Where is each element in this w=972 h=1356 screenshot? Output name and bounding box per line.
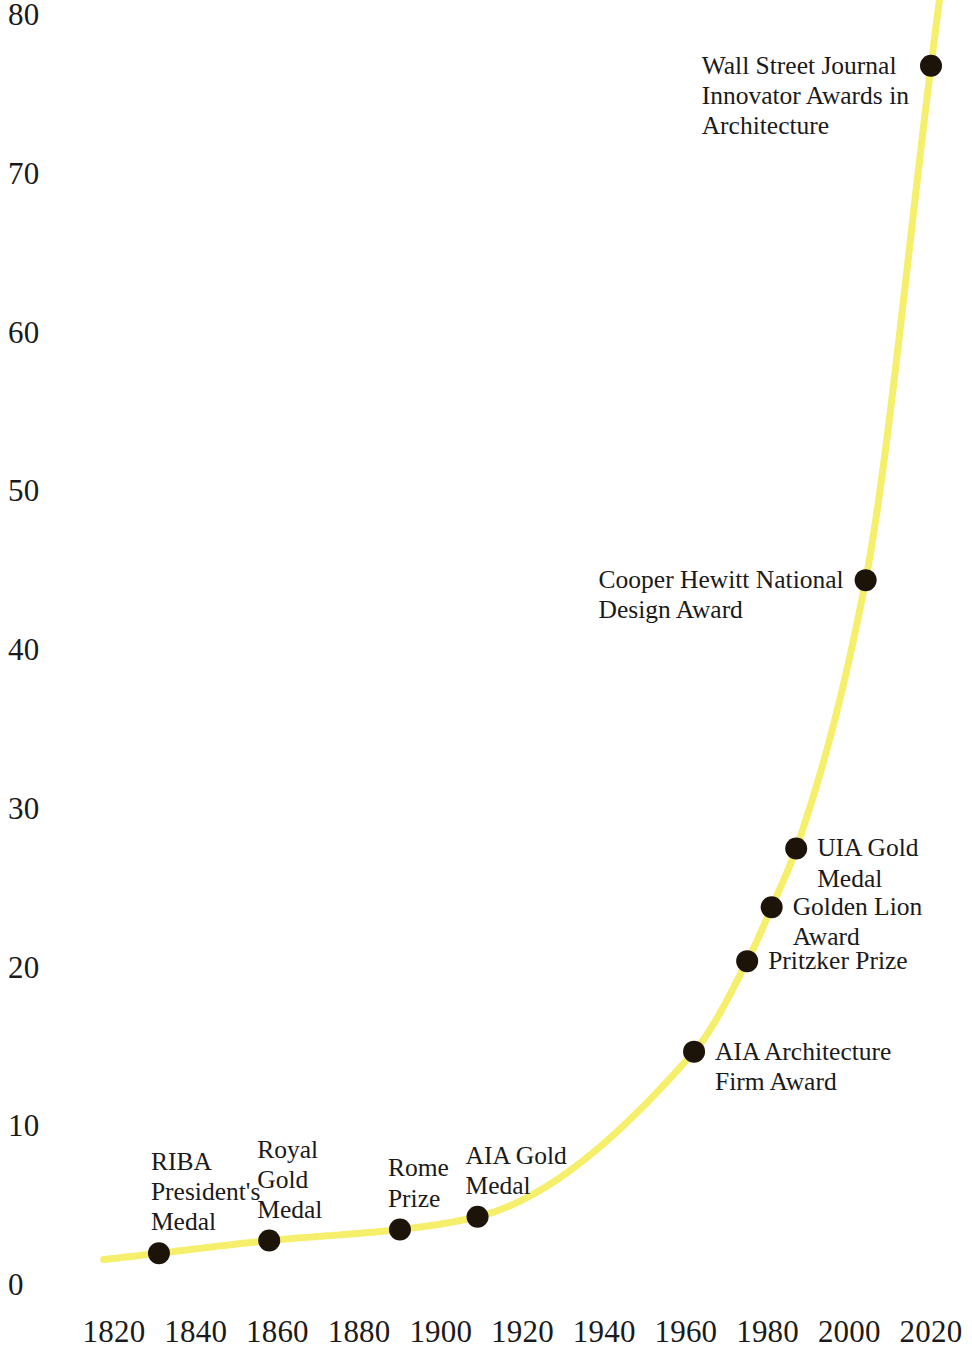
data-point-marker bbox=[683, 1041, 705, 1063]
y-axis-tick-30: 30 bbox=[8, 793, 39, 824]
x-axis-tick-1920: 1920 bbox=[491, 1316, 554, 1347]
data-point-marker bbox=[258, 1230, 280, 1252]
data-point-label: Rome Prize bbox=[388, 1153, 449, 1213]
x-axis-tick-2000: 2000 bbox=[818, 1316, 881, 1347]
data-point-marker bbox=[761, 896, 783, 918]
y-axis-tick-50: 50 bbox=[8, 475, 39, 506]
y-axis-tick-60: 60 bbox=[8, 317, 39, 348]
x-axis-tick-1900: 1900 bbox=[409, 1316, 472, 1347]
data-point-label: Golden Lion Award bbox=[793, 892, 972, 952]
data-point-marker bbox=[855, 569, 877, 591]
x-axis-tick-1860: 1860 bbox=[246, 1316, 309, 1347]
x-axis-tick-1880: 1880 bbox=[328, 1316, 391, 1347]
data-point-label: AIA Gold Medal bbox=[466, 1141, 567, 1201]
y-axis-tick-80: 80 bbox=[8, 0, 39, 30]
x-axis-tick-1960: 1960 bbox=[654, 1316, 717, 1347]
data-point-marker bbox=[736, 950, 758, 972]
x-axis-tick-1820: 1820 bbox=[83, 1316, 146, 1347]
data-point-marker bbox=[148, 1242, 170, 1264]
data-point-label: UIA Gold Medal bbox=[817, 833, 972, 893]
y-axis-tick-70: 70 bbox=[8, 158, 39, 189]
data-point-label: Wall Street Journal Innovator Awards in … bbox=[702, 51, 909, 141]
data-point-marker bbox=[389, 1218, 411, 1240]
y-axis-tick-10: 10 bbox=[8, 1110, 39, 1141]
x-axis-tick-1940: 1940 bbox=[573, 1316, 636, 1347]
chart-canvas: 01020304050607080 1820184018601880190019… bbox=[0, 0, 972, 1356]
data-point-label: Cooper Hewitt National Design Award bbox=[599, 565, 844, 625]
x-axis-tick-1840: 1840 bbox=[164, 1316, 227, 1347]
data-point-marker bbox=[920, 55, 942, 77]
x-axis-tick-2020: 2020 bbox=[900, 1316, 963, 1347]
data-point-label: RIBA President's Medal bbox=[151, 1147, 260, 1237]
y-axis-tick-20: 20 bbox=[8, 952, 39, 983]
data-point-marker bbox=[785, 837, 807, 859]
data-point-label: Royal Gold Medal bbox=[257, 1135, 322, 1225]
y-axis-tick-0: 0 bbox=[8, 1269, 24, 1300]
y-axis-tick-40: 40 bbox=[8, 634, 39, 665]
data-point-label: AIA Architecture Firm Award bbox=[715, 1037, 891, 1097]
data-point-marker bbox=[467, 1206, 489, 1228]
x-axis-tick-1980: 1980 bbox=[736, 1316, 799, 1347]
